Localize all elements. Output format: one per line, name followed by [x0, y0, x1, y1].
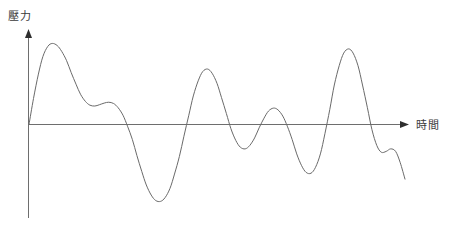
chart-canvas [0, 0, 457, 233]
pressure-waveform-path [29, 43, 405, 201]
x-axis-label: 時間 [416, 116, 439, 132]
pressure-time-chart: 壓力 時間 [0, 0, 457, 233]
y-axis-label: 壓力 [8, 7, 31, 23]
